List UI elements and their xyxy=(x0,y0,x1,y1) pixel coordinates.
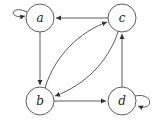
graph-diagram: a c b d xyxy=(0,0,163,120)
node-a: a xyxy=(26,4,54,32)
edge-d-self-loop xyxy=(135,95,150,107)
edge-b-to-c xyxy=(45,22,107,88)
edge-c-to-b xyxy=(55,32,118,96)
node-c-label: c xyxy=(119,11,126,25)
node-a-label: a xyxy=(36,11,43,25)
node-b: b xyxy=(26,87,54,115)
node-b-label: b xyxy=(36,94,44,108)
edge-a-self-loop xyxy=(13,10,27,17)
node-d: d xyxy=(108,87,136,115)
node-d-label: d xyxy=(118,94,126,108)
node-c: c xyxy=(108,4,136,32)
